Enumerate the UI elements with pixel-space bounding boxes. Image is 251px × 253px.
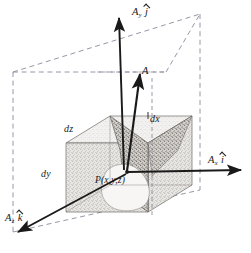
label-edge-dy: dy [41,169,51,179]
diagram-canvas [0,0,251,253]
label-ax-symbol: A [208,154,215,165]
label-ay-unit-vector: j [145,7,148,18]
label-component-az: Az k [5,213,23,224]
outer-box-edge-top-diag [13,14,200,72]
differential-volume-cube [66,116,192,212]
label-az-subscript: z [12,217,15,224]
label-az-symbol: A [5,212,12,223]
label-az-unit-vector: k [18,213,23,224]
label-vector-a: A [142,66,149,77]
label-ay-subscript: y [139,11,143,18]
label-ax-subscript: x [215,159,219,166]
label-edge-dx: dx [150,114,160,124]
label-component-ax: Ax i [208,155,224,166]
label-edge-dz: dz [64,124,73,134]
label-ay-symbol: A [132,6,139,17]
point-p-marker [125,170,129,174]
label-point-p: P(x,y,z) [95,176,125,186]
vector-components-diagram: Ay j Ax i Az k A dz dx dy P(x,y,z) [0,0,251,253]
label-component-ay: Ay j [132,7,148,18]
label-ax-unit-vector: i [221,155,224,166]
